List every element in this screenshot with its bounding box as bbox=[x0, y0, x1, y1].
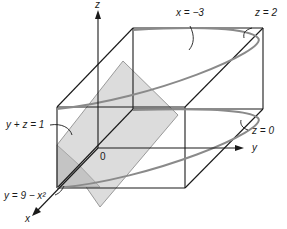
label-z-eq-0: z = 0 bbox=[252, 126, 274, 136]
x-axis-label: x bbox=[25, 214, 30, 224]
label-z-eq-2: z = 2 bbox=[255, 8, 277, 18]
label-parabola: y = 9 − x² bbox=[4, 191, 46, 201]
origin-label: 0 bbox=[100, 152, 106, 162]
y-axis-label: y bbox=[252, 143, 257, 153]
z-axis-label: z bbox=[95, 0, 100, 10]
3d-region-diagram: z y x 0 x = −3 z = 2 z = 0 y + z = 1 y =… bbox=[0, 0, 287, 229]
label-plane: y + z = 1 bbox=[6, 120, 44, 130]
label-x-eq-neg3: x = −3 bbox=[176, 8, 204, 18]
